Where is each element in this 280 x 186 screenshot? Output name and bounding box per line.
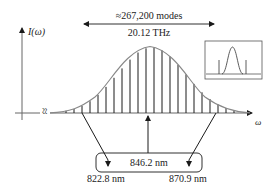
center-wavelength-label: 846.2 nm (130, 157, 168, 168)
bandwidth-label: 20.12 THz (128, 27, 171, 38)
y-axis-label: I(ω) (27, 26, 46, 38)
spectrum-diagram: I(ω) ≈ ω ≈267,200 modes 20.12 (0, 0, 280, 186)
inset-spectrum (205, 41, 262, 79)
axis-break-icon: ≈ (39, 108, 51, 114)
right-wavelength-label: 870.9 nm (169, 173, 207, 184)
modes-count-label: ≈267,200 modes (116, 10, 183, 21)
left-wavelength-label: 822.8 nm (87, 173, 125, 184)
x-axis-label: ω (255, 117, 261, 127)
